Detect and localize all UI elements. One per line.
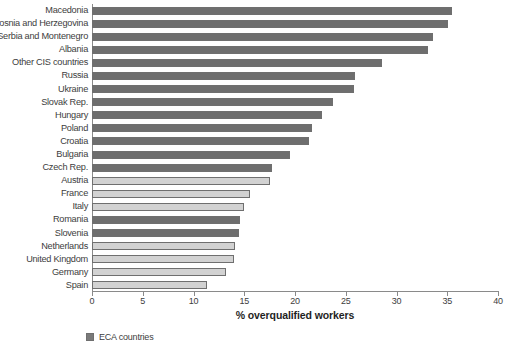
x-tick-label-20: 20 xyxy=(290,296,300,306)
bar xyxy=(92,72,355,80)
bar xyxy=(92,85,354,93)
bar xyxy=(92,20,448,28)
category-label: Italy xyxy=(72,200,88,213)
chart-row: Macedonia xyxy=(92,4,498,17)
chart-row: Ukraine xyxy=(92,83,498,96)
x-tick-label-35: 35 xyxy=(442,296,452,306)
chart-row: Poland xyxy=(92,122,498,135)
plot-area: MacedoniaBosnia and HerzegovinaSerbia an… xyxy=(92,4,498,292)
category-label: Slovak Rep. xyxy=(41,96,88,109)
chart-row: Albania xyxy=(92,43,498,56)
bar xyxy=(92,177,270,185)
category-label: Slovenia xyxy=(55,227,88,240)
bar xyxy=(92,268,226,276)
x-tick-label-40: 40 xyxy=(493,296,503,306)
chart-legend: ECA countries xyxy=(86,332,153,342)
legend-swatch-eca-countries xyxy=(86,333,94,341)
chart-row: Bulgaria xyxy=(92,148,498,161)
bar xyxy=(92,33,433,41)
x-tick-label-25: 25 xyxy=(341,296,351,306)
category-label: Macedonia xyxy=(45,4,88,17)
chart-row: Hungary xyxy=(92,109,498,122)
chart-row: Croatia xyxy=(92,135,498,148)
chart-row: Netherlands xyxy=(92,240,498,253)
bar xyxy=(92,124,312,132)
bar xyxy=(92,242,235,250)
bar xyxy=(92,98,333,106)
chart-row: Germany xyxy=(92,266,498,279)
x-tick-label-15: 15 xyxy=(239,296,249,306)
chart-row: Russia xyxy=(92,69,498,82)
bar xyxy=(92,190,250,198)
bar xyxy=(92,216,240,224)
bar xyxy=(92,46,428,54)
category-label: Bosnia and Herzegovina xyxy=(0,17,88,30)
bar xyxy=(92,151,290,159)
chart-row: Spain xyxy=(92,279,498,292)
chart-row: Slovak Rep. xyxy=(92,96,498,109)
category-label: Romania xyxy=(53,213,88,226)
category-label: Poland xyxy=(61,122,88,135)
category-label: Bulgaria xyxy=(56,148,88,161)
category-label: Ukraine xyxy=(58,83,88,96)
chart-row: France xyxy=(92,187,498,200)
chart-row: Serbia and Montenegro xyxy=(92,30,498,43)
category-label: Croatia xyxy=(60,135,88,148)
category-label: Albania xyxy=(59,43,88,56)
x-tick-label-10: 10 xyxy=(189,296,199,306)
category-label: France xyxy=(61,187,88,200)
x-axis-title: % overqualified workers xyxy=(92,309,498,321)
bar xyxy=(92,203,244,211)
category-label: Czech Rep. xyxy=(42,161,88,174)
category-label: Spain xyxy=(66,279,88,292)
category-label: Serbia and Montenegro xyxy=(0,30,88,43)
chart-row: Bosnia and Herzegovina xyxy=(92,17,498,30)
legend-label-eca-countries: ECA countries xyxy=(99,332,153,342)
bar xyxy=(92,255,234,263)
bar xyxy=(92,164,272,172)
chart-row: United Kingdom xyxy=(92,253,498,266)
bar xyxy=(92,137,309,145)
chart-row: Slovenia xyxy=(92,227,498,240)
chart-row: Italy xyxy=(92,200,498,213)
chart-row: Czech Rep. xyxy=(92,161,498,174)
x-tick-label-30: 30 xyxy=(392,296,402,306)
bar xyxy=(92,59,382,67)
category-label: United Kingdom xyxy=(26,253,88,266)
bar xyxy=(92,111,322,119)
category-label: Netherlands xyxy=(41,240,88,253)
bar xyxy=(92,229,239,237)
overqualified-workers-bar-chart: MacedoniaBosnia and HerzegovinaSerbia an… xyxy=(0,0,511,351)
category-label: Austria xyxy=(61,174,88,187)
category-label: Russia xyxy=(61,69,88,82)
chart-row: Other CIS countries xyxy=(92,56,498,69)
category-label: Other CIS countries xyxy=(12,56,88,69)
category-label: Hungary xyxy=(55,109,88,122)
chart-row: Romania xyxy=(92,213,498,226)
chart-row: Austria xyxy=(92,174,498,187)
x-tick-label-0: 0 xyxy=(90,296,95,306)
bar xyxy=(92,281,207,289)
x-tick-label-5: 5 xyxy=(140,296,145,306)
category-label: Germany xyxy=(52,266,88,279)
bar xyxy=(92,7,452,15)
